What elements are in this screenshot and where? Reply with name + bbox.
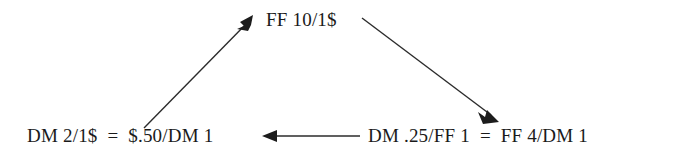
arrow-head-left [262,130,277,142]
arrow-bottom-left-to-top [144,15,253,128]
currency-triangle-diagram: FF 10/1$ DM 2/1$ = $.50/DM 1 DM .25/FF 1… [0,0,673,159]
node-label-dm-per-ff: DM .25/FF 1 = FF 4/DM 1 [368,126,588,145]
arrow-shaft [362,18,491,115]
arrow-head-up-right [237,15,253,31]
node-label-ff-per-dollar: FF 10/1$ [266,10,337,29]
node-label-dm-per-dollar: DM 2/1$ = $.50/DM 1 [27,126,213,145]
arrow-bottom-right-to-bottom-left [262,130,360,142]
arrow-top-to-bottom-right [362,18,499,124]
arrow-head-down-right [478,110,499,124]
arrow-shaft [144,21,249,128]
